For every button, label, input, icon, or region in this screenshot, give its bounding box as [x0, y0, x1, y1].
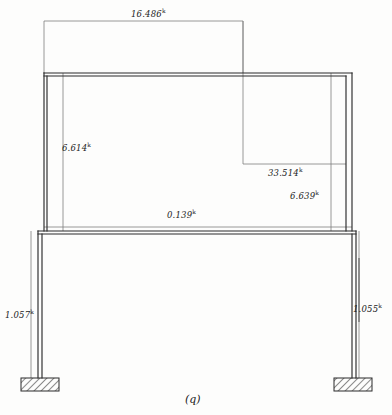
left-fixed-support — [21, 378, 59, 391]
left-lower-column-force-label: 1.057k — [5, 309, 34, 319]
frame-members — [38, 73, 356, 378]
left-upper-column-force-label: 6.614k — [62, 142, 91, 152]
top-span-force-value: 16.486 — [131, 9, 162, 19]
top-span-force-unit: k — [162, 7, 166, 14]
left-upper-column-force-unit: k — [87, 141, 91, 148]
right-fixed-support — [334, 378, 372, 391]
top-span-diagram-block — [44, 21, 243, 73]
support-group — [21, 378, 372, 391]
right-lower-column-force-value: 1.055 — [353, 304, 378, 314]
right-support-hatch — [334, 378, 372, 391]
frame-diagram-canvas — [0, 0, 392, 415]
top-span-force-label: 16.486k — [131, 8, 166, 18]
left-upper-column-force-value: 6.614 — [62, 143, 87, 153]
structural-frame-figure: 16.486k 6.614k 33.514k 6.639k 0.139k 1.0… — [0, 0, 392, 415]
figure-caption: (q) — [185, 393, 201, 406]
right-upper-column-force-label: 6.639k — [290, 190, 319, 200]
right-upper-column-force-value: 6.639 — [290, 191, 315, 201]
left-lower-column-force-unit: k — [30, 308, 34, 315]
mid-beam-force-unit: k — [192, 208, 196, 215]
mid-beam-force-value: 0.139 — [167, 210, 192, 220]
mid-beam-force-label: 0.139k — [167, 209, 196, 219]
left-lower-column-force-value: 1.057 — [5, 310, 30, 320]
mid-right-step-force-label: 33.514k — [268, 167, 303, 177]
mid-right-step-force-unit: k — [299, 166, 303, 173]
right-lower-column-force-unit: k — [378, 302, 382, 309]
left-support-hatch — [21, 378, 59, 391]
right-upper-column-force-unit: k — [315, 189, 319, 196]
mid-right-step-force-value: 33.514 — [268, 168, 299, 178]
right-lower-column-force-label: 1.055k — [353, 303, 382, 313]
mid-right-step-diagram — [243, 21, 346, 164]
